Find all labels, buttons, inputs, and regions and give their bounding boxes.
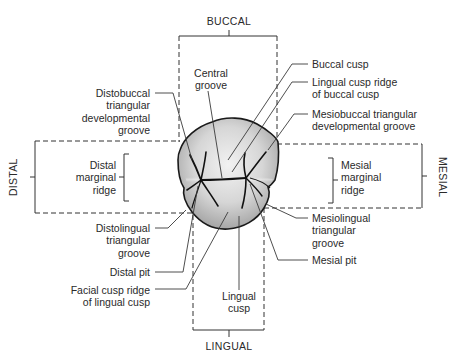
diagram-canvas: BUCCAL LINGUAL DISTAL MESIAL Distobuccal… [0, 0, 458, 360]
label-distal-marginal-ridge: Distal marginal ridge [60, 159, 116, 196]
label-lingual-cusp-ridge-of-buccal-cusp: Lingual cusp ridge of buccal cusp [312, 76, 397, 101]
label-mesiobuccal-triangular-developmental-groove: Mesiobuccal triangular developmental gro… [312, 108, 417, 133]
distal-marginal-ridge-bracket [119, 154, 129, 201]
label-central-groove: Central groove [186, 67, 236, 92]
label-buccal: BUCCAL [199, 15, 259, 27]
label-facial-cusp-ridge-of-lingual-cusp: Facial cusp ridge of lingual cusp [50, 284, 150, 309]
label-mesial: MESIAL [437, 152, 449, 202]
label-lingual: LINGUAL [196, 340, 262, 352]
label-distal: DISTAL [7, 152, 19, 202]
label-buccal-cusp: Buccal cusp [312, 58, 369, 70]
label-distobuccal-triangular-developmental-groove: Distobuccal triangular developmental gro… [60, 87, 150, 136]
label-mesial-pit: Mesial pit [312, 254, 356, 266]
label-mesiolingual-triangular-groove: Mesiolingual triangular groove [312, 212, 370, 249]
label-lingual-cusp: Lingual cusp [214, 290, 264, 315]
label-distal-pit: Distal pit [60, 266, 150, 278]
label-mesial-marginal-ridge: Mesial marginal ridge [341, 159, 381, 196]
label-distolingual-triangular-groove: Distolingual triangular groove [60, 222, 150, 259]
mesial-marginal-ridge-bracket [328, 158, 338, 203]
